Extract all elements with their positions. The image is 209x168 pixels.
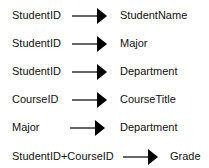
dependency-row: StudentID StudentName — [0, 6, 209, 26]
dependent-label: StudentName — [120, 8, 187, 22]
determinant-label: CourseID — [12, 92, 58, 106]
arrow-right-icon — [72, 6, 108, 26]
dependency-row: CourseID CourseTitle — [0, 90, 209, 110]
arrow-right-icon — [70, 118, 106, 138]
dependent-label: Department — [120, 120, 177, 134]
dependency-row: Major Department — [0, 118, 209, 138]
dependency-row: StudentID Department — [0, 62, 209, 82]
dependent-label: Major — [120, 36, 148, 50]
determinant-label: StudentID — [12, 36, 61, 50]
dependent-label: Grade — [170, 149, 201, 163]
arrow-right-icon — [72, 62, 108, 82]
determinant-label: Major — [12, 120, 40, 134]
arrow-right-icon — [72, 90, 108, 110]
arrow-right-icon — [72, 34, 108, 54]
determinant-label: StudentID+CourseID — [12, 149, 114, 163]
dependent-label: CourseTitle — [120, 92, 176, 106]
dependent-label: Department — [120, 64, 177, 78]
determinant-label: StudentID — [12, 64, 61, 78]
dependency-row: StudentID Major — [0, 34, 209, 54]
dependency-row: StudentID+CourseID Grade — [0, 147, 209, 167]
arrow-right-icon — [123, 147, 159, 167]
determinant-label: StudentID — [12, 8, 61, 22]
